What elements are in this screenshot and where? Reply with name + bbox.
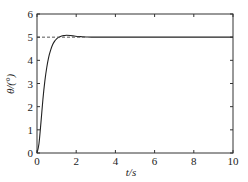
plot-area (37, 14, 233, 153)
y-tick-label: 4 (28, 54, 34, 66)
response-curve (37, 35, 233, 153)
y-tick-label: 2 (28, 101, 34, 113)
x-tick-label: 2 (73, 155, 79, 167)
step-response-chart: 0246810 0123456 t/s θ/(°) (0, 0, 248, 182)
y-tick-label: 1 (28, 124, 34, 136)
y-tick-label: 3 (28, 78, 34, 90)
x-axis-label: t/s (126, 166, 136, 178)
y-tick-label: 0 (28, 147, 34, 159)
x-tick-label: 8 (191, 155, 197, 167)
y-axis-ticks: 0123456 (28, 8, 234, 159)
y-axis-label: θ/(°) (4, 74, 17, 95)
x-tick-label: 0 (34, 155, 40, 167)
x-tick-label: 10 (228, 155, 240, 167)
x-tick-label: 4 (113, 155, 119, 167)
x-tick-label: 6 (152, 155, 158, 167)
y-tick-label: 6 (28, 8, 34, 20)
y-tick-label: 5 (28, 31, 34, 43)
